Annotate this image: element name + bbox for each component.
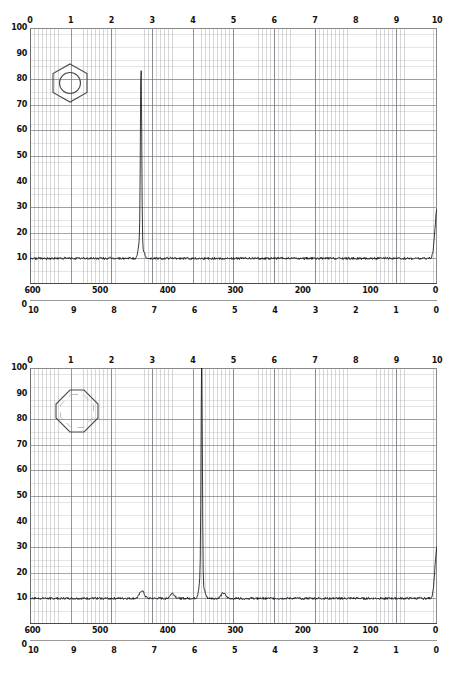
ppm-axis-tick: 4 — [272, 647, 277, 655]
hz-axis-tick: 200 — [295, 627, 311, 635]
ppm-axis-cot: 10 9 8 7 6 5 4 3 2 1 0 — [30, 647, 437, 658]
y-axis-tick: 30 — [0, 203, 27, 211]
hz-axis-tick: 300 — [227, 287, 243, 295]
cyclooctatetraene-octagon-icon — [54, 388, 100, 434]
hz-axis-tick: 100 — [362, 287, 378, 295]
y-axis-tick: 70 — [0, 441, 27, 449]
y-axis-tick: 80 — [0, 75, 27, 83]
y-axis-tick: 20 — [0, 569, 27, 577]
baseline-axis — [30, 623, 437, 624]
top-axis-tick: 10 — [432, 17, 443, 25]
ppm-axis-tick: 6 — [192, 307, 197, 315]
ppm-axis-tick: 6 — [192, 647, 197, 655]
hz-axis-tick: 400 — [160, 627, 176, 635]
y-axis-tick: 10 — [0, 254, 27, 262]
axis-separator — [30, 640, 437, 641]
top-axis-tick: 1 — [68, 357, 73, 365]
y-axis-tick: 60 — [0, 466, 27, 474]
ppm-axis-tick: 3 — [313, 307, 318, 315]
top-axis-tick: 10 — [432, 357, 443, 365]
ppm-axis-tick: 1 — [393, 307, 398, 315]
ppm-axis-tick: 8 — [111, 307, 116, 315]
y-axis-tick: 50 — [0, 492, 27, 500]
ppm-axis-tick: 2 — [353, 307, 358, 315]
top-axis-tick: 9 — [394, 357, 399, 365]
top-axis-tick: 2 — [109, 357, 114, 365]
hz-axis-tick: 500 — [92, 287, 108, 295]
ppm-axis-tick: 3 — [313, 647, 318, 655]
hz-axis-tick: 600 — [25, 627, 41, 635]
ppm-axis-tick: 8 — [111, 647, 116, 655]
y-axis-tick: 100 — [0, 24, 27, 32]
top-axis-tick: 6 — [272, 357, 277, 365]
top-axis-tick: 8 — [353, 357, 358, 365]
ppm-axis-tick: 2 — [353, 647, 358, 655]
ppm-axis-tick: 5 — [232, 647, 237, 655]
hz-axis-tick: 100 — [362, 627, 378, 635]
top-axis-tick: 7 — [312, 357, 317, 365]
top-axis-tick: 4 — [190, 17, 195, 25]
top-axis-tick: 0 — [27, 17, 32, 25]
ppm-axis-benzene: 10 9 8 7 6 5 4 3 2 1 0 — [30, 307, 437, 318]
spectrum-panel-benzene: 0 1 2 3 4 5 6 7 8 9 10 100 90 80 70 60 5… — [0, 4, 459, 334]
y-axis-tick-zero: 0 — [0, 640, 27, 649]
nmr-spectra-figure: 0 1 2 3 4 5 6 7 8 9 10 100 90 80 70 60 5… — [0, 0, 459, 677]
hz-axis-tick: 500 — [92, 627, 108, 635]
ppm-axis-tick: 0 — [434, 307, 439, 315]
ppm-axis-tick: 9 — [71, 307, 76, 315]
hz-axis-benzene: 600 500 400 300 200 100 0 — [30, 287, 437, 298]
spectrum-panel-cyclooctatetraene: 0 1 2 3 4 5 6 7 8 9 10 100 90 80 70 60 5… — [0, 344, 459, 674]
y-axis-tick: 70 — [0, 101, 27, 109]
top-axis-benzene: 0 1 2 3 4 5 6 7 8 9 10 — [30, 17, 437, 27]
axis-separator — [30, 300, 437, 301]
top-axis-tick: 2 — [109, 17, 114, 25]
top-axis-tick: 9 — [394, 17, 399, 25]
ppm-axis-tick: 10 — [28, 307, 39, 315]
y-axis-tick: 80 — [0, 415, 27, 423]
y-axis-tick: 90 — [0, 390, 27, 398]
top-axis-tick: 8 — [353, 17, 358, 25]
y-axis-tick: 60 — [0, 126, 27, 134]
y-axis-tick: 40 — [0, 178, 27, 186]
y-axis-tick: 30 — [0, 543, 27, 551]
benzene-hexagon-icon — [48, 61, 92, 103]
top-axis-tick: 3 — [149, 17, 154, 25]
top-axis-tick: 1 — [68, 17, 73, 25]
ppm-axis-tick: 4 — [272, 307, 277, 315]
top-axis-tick: 5 — [231, 357, 236, 365]
y-axis-tick-zero: 0 — [0, 300, 27, 309]
hz-axis-tick: 200 — [295, 287, 311, 295]
ppm-axis-tick: 0 — [434, 647, 439, 655]
baseline-axis — [30, 283, 437, 284]
hz-axis-tick: 300 — [227, 627, 243, 635]
y-axis-cot: 100 90 80 70 60 50 40 30 20 10 — [0, 368, 27, 624]
ppm-axis-tick: 7 — [151, 307, 156, 315]
top-axis-tick: 5 — [231, 17, 236, 25]
y-axis-tick: 100 — [0, 364, 27, 372]
y-axis-tick: 20 — [0, 229, 27, 237]
hz-axis-tick: 400 — [160, 287, 176, 295]
top-axis-tick: 6 — [272, 17, 277, 25]
top-axis-tick: 4 — [190, 357, 195, 365]
ppm-axis-tick: 10 — [28, 647, 39, 655]
top-axis-tick: 3 — [149, 357, 154, 365]
y-axis-tick: 50 — [0, 152, 27, 160]
hz-axis-tick: 0 — [433, 627, 438, 635]
ppm-axis-tick: 7 — [151, 647, 156, 655]
hz-axis-tick: 0 — [433, 287, 438, 295]
top-axis-tick: 0 — [27, 357, 32, 365]
top-axis-tick: 7 — [312, 17, 317, 25]
ppm-axis-tick: 1 — [393, 647, 398, 655]
y-axis-tick: 90 — [0, 50, 27, 58]
y-axis-benzene: 100 90 80 70 60 50 40 30 20 10 — [0, 28, 27, 284]
y-axis-tick: 40 — [0, 518, 27, 526]
hz-axis-tick: 600 — [25, 287, 41, 295]
ppm-axis-tick: 9 — [71, 647, 76, 655]
ppm-axis-tick: 5 — [232, 307, 237, 315]
hz-axis-cot: 600 500 400 300 200 100 0 — [30, 627, 437, 638]
y-axis-tick: 10 — [0, 594, 27, 602]
top-axis-cot: 0 1 2 3 4 5 6 7 8 9 10 — [30, 357, 437, 367]
